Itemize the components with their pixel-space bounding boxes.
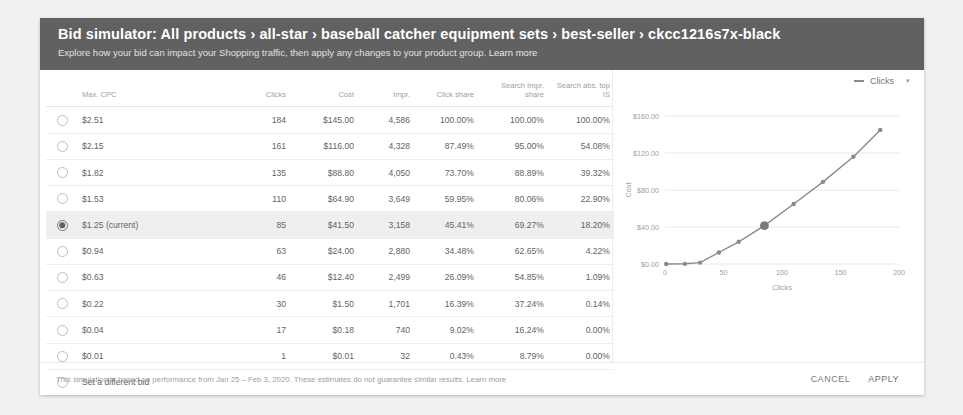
cell-clicks: 30 — [228, 291, 290, 317]
chart-highlight-point — [760, 221, 769, 230]
table-row[interactable]: $2.51184$145.004,586100.00%100.00%100.00… — [46, 107, 614, 133]
table-body: $2.51184$145.004,586100.00%100.00%100.00… — [46, 107, 614, 395]
cell-clicks: 63 — [228, 238, 290, 264]
bid-option-radio[interactable] — [57, 141, 68, 152]
dialog-footer: This simulation is based on performance … — [40, 362, 924, 395]
table-row[interactable]: $0.2230$1.501,70116.39%37.24%0.14% — [46, 291, 614, 317]
chart-data-point — [878, 128, 882, 132]
dialog-header: Bid simulator: All products › all-star ›… — [40, 18, 924, 70]
bid-option-radio[interactable] — [57, 246, 68, 257]
table-header-impr: Impr. — [358, 76, 414, 107]
table-row[interactable]: $0.0417$0.187409.02%16.24%0.00% — [46, 317, 614, 343]
bid-option-radio[interactable] — [57, 298, 68, 309]
table-header-clicks: Clicks — [228, 76, 290, 107]
header-subtitle-text: Explore how your bid can impact your Sho… — [58, 47, 486, 58]
table-header-radio — [46, 76, 78, 107]
y-axis-tick-label: $160.00 — [633, 112, 659, 121]
cell-search-impr-share: 88.89% — [478, 159, 548, 185]
footer-learn-more-link[interactable]: Learn more — [466, 375, 506, 384]
cell-click-share: 87.49% — [414, 133, 478, 159]
simulation-table-panel: Max. CPC Clicks Cost Impr. Click share S… — [40, 70, 612, 362]
bid-simulator-dialog: Bid simulator: All products › all-star ›… — [40, 18, 924, 395]
cell-max-cpc: $1.25 (current) — [78, 212, 228, 238]
bid-simulation-table: Max. CPC Clicks Cost Impr. Click share S… — [46, 76, 614, 395]
footer-note-text: This simulation is based on performance … — [56, 375, 464, 384]
cell-cost: $41.50 — [290, 212, 358, 238]
cell-max-cpc: $0.94 — [78, 238, 228, 264]
bid-option-radio-cell[interactable] — [46, 238, 78, 264]
y-axis-tick-label: $40.00 — [637, 223, 659, 232]
cell-impr: 3,158 — [358, 212, 414, 238]
cell-clicks: 161 — [228, 133, 290, 159]
cell-max-cpc: $0.22 — [78, 291, 228, 317]
bid-option-radio-cell[interactable] — [46, 291, 78, 317]
cell-impr: 1,701 — [358, 291, 414, 317]
bid-option-radio-cell[interactable] — [46, 133, 78, 159]
cell-impr: 4,586 — [358, 107, 414, 133]
cell-click-share: 100.00% — [414, 107, 478, 133]
table-row[interactable]: $1.25 (current)85$41.503,15845.41%69.27%… — [46, 212, 614, 238]
cell-search-abs-top-is: 54.08% — [548, 133, 614, 159]
cell-max-cpc: $0.04 — [78, 317, 228, 343]
cell-max-cpc: $0.63 — [78, 264, 228, 290]
bid-option-radio[interactable] — [57, 220, 68, 231]
apply-button[interactable]: APPLY — [859, 369, 908, 389]
y-axis-tick-label: $120.00 — [633, 149, 659, 158]
cell-clicks: 110 — [228, 186, 290, 212]
cell-search-abs-top-is: 0.14% — [548, 291, 614, 317]
table-row[interactable]: $1.53110$64.903,64959.95%80.06%22.90% — [46, 186, 614, 212]
bid-option-radio[interactable] — [57, 325, 68, 336]
table-header-search-impr-share: Search Impr. share — [478, 76, 548, 107]
bid-option-radio-cell[interactable] — [46, 159, 78, 185]
cell-click-share: 9.02% — [414, 317, 478, 343]
cell-impr: 4,050 — [358, 159, 414, 185]
cell-search-abs-top-is: 18.20% — [548, 212, 614, 238]
cell-search-impr-share: 16.24% — [478, 317, 548, 343]
bid-option-radio[interactable] — [57, 193, 68, 204]
table-header-click-share: Click share — [414, 76, 478, 107]
cell-click-share: 16.39% — [414, 291, 478, 317]
cell-clicks: 17 — [228, 317, 290, 343]
cost-vs-clicks-chart: $0.00$40.00$80.00$120.00$160.00050100150… — [613, 104, 924, 319]
bid-option-radio-cell[interactable] — [46, 186, 78, 212]
chart-data-point — [737, 240, 741, 244]
table-row[interactable]: $1.82135$88.804,05073.70%88.89%39.32% — [46, 159, 614, 185]
cell-impr: 2,499 — [358, 264, 414, 290]
x-axis-tick-label: 100 — [776, 268, 788, 277]
cell-click-share: 45.41% — [414, 212, 478, 238]
cell-search-impr-share: 37.24% — [478, 291, 548, 317]
chart-legend[interactable]: Clicks ▾ — [854, 76, 910, 86]
bid-option-radio-cell[interactable] — [46, 107, 78, 133]
header-learn-more-link[interactable]: Learn more — [489, 47, 538, 58]
chart-data-point — [664, 262, 668, 266]
bid-option-radio[interactable] — [57, 351, 68, 362]
bid-option-radio[interactable] — [57, 167, 68, 178]
cell-impr: 4,328 — [358, 133, 414, 159]
cell-search-abs-top-is: 100.00% — [548, 107, 614, 133]
bid-option-radio-cell[interactable] — [46, 264, 78, 290]
footer-note: This simulation is based on performance … — [56, 375, 802, 384]
cell-search-abs-top-is: 4.22% — [548, 238, 614, 264]
cell-cost: $12.40 — [290, 264, 358, 290]
cell-cost: $64.90 — [290, 186, 358, 212]
table-row[interactable]: $2.15161$116.004,32887.49%95.00%54.08% — [46, 133, 614, 159]
table-row[interactable]: $0.6346$12.402,49926.09%54.85%1.09% — [46, 264, 614, 290]
cell-clicks: 46 — [228, 264, 290, 290]
cell-cost: $1.50 — [290, 291, 358, 317]
cell-max-cpc: $1.82 — [78, 159, 228, 185]
chart-panel: Clicks ▾ $0.00$40.00$80.00$120.00$160.00… — [612, 70, 924, 362]
table-row[interactable]: $0.9463$24.002,88034.48%62.65%4.22% — [46, 238, 614, 264]
bid-option-radio[interactable] — [57, 272, 68, 283]
x-axis-label: Clicks — [772, 283, 792, 292]
bid-option-radio-cell[interactable] — [46, 317, 78, 343]
cancel-button[interactable]: CANCEL — [802, 369, 860, 389]
bid-option-radio-cell[interactable] — [46, 212, 78, 238]
bid-option-radio[interactable] — [57, 115, 68, 126]
chart-data-point — [683, 262, 687, 266]
table-header-max-cpc: Max. CPC — [78, 76, 228, 107]
table-header: Max. CPC Clicks Cost Impr. Click share S… — [46, 76, 614, 107]
chevron-down-icon[interactable]: ▾ — [906, 77, 910, 85]
cell-search-impr-share: 62.65% — [478, 238, 548, 264]
page-title: Bid simulator: All products › all-star ›… — [58, 26, 906, 42]
y-axis-tick-label: $80.00 — [637, 186, 659, 195]
